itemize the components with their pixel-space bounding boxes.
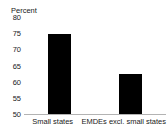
bar-small-states[interactable] [48,34,71,115]
x-axis-label-emdes-excl-small-states: EMDEs excl. small states [81,117,166,126]
y-axis-tick-60: 60 [13,79,21,87]
bar-slot-emdes-excl-small-states [95,18,166,115]
x-axis-baseline [24,114,166,115]
plot-area: 80 75 70 65 60 55 50 [24,18,166,115]
bar-emdes-excl-small-states[interactable] [119,74,142,115]
x-axis-label-small-states: Small states [24,117,81,126]
bar-slot-small-states [24,18,95,115]
bar-chart: Percent 80 75 70 65 60 55 50 Small state… [0,0,167,136]
y-axis-tick-55: 55 [13,95,21,103]
y-axis-tick-65: 65 [13,63,21,71]
x-axis-category-labels: Small states EMDEs excl. small states [24,117,166,126]
x-axis-category-slot-1: EMDEs excl. small states [81,117,166,126]
y-axis-tick-50: 50 [13,111,21,119]
y-axis-tick-75: 75 [13,30,21,38]
x-axis-category-slot-0: Small states [24,117,81,126]
y-axis-tick-70: 70 [13,46,21,54]
y-axis-tick-80: 80 [13,14,21,22]
bar-group [24,18,166,115]
